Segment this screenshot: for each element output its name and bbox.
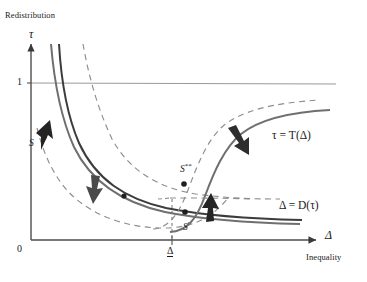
d-curve-solid-gray bbox=[51, 44, 300, 224]
equilibrium-point-interior bbox=[121, 193, 126, 198]
y-axis-name: Redistribution bbox=[5, 11, 55, 20]
y-tick-label-one: 1 bbox=[17, 77, 22, 87]
t-curve-label: τ = T(Δ) bbox=[272, 130, 311, 142]
origin-label: 0 bbox=[17, 244, 22, 254]
motion-arrow-up-left bbox=[36, 120, 53, 150]
point-label-s: S bbox=[29, 139, 34, 149]
equilibrium-point-s-star-star bbox=[181, 181, 187, 187]
phase-diagram-figure bbox=[0, 0, 367, 282]
point-label-s-star-star: S** bbox=[180, 163, 192, 175]
s-star-left-dashed bbox=[158, 198, 171, 199]
point-label-s-prime: S′ bbox=[183, 221, 189, 233]
tau-equals-one-line bbox=[31, 83, 336, 84]
x-tick-label-delta-bar: Δ bbox=[167, 246, 173, 257]
d-curve-label: Δ = D(τ) bbox=[279, 200, 319, 212]
equilibrium-point-s-prime bbox=[182, 209, 188, 215]
x-axis-symbol: Δ bbox=[325, 229, 332, 241]
point-label-s-prime-sup: ′ bbox=[188, 220, 190, 228]
point-label-s-star-star-sup: ** bbox=[185, 162, 192, 170]
x-axis-name: Inequality bbox=[306, 253, 341, 262]
motion-arrow-down-mid bbox=[86, 175, 103, 204]
d-curve-upper-dashed bbox=[83, 44, 280, 199]
y-axis-symbol: τ bbox=[29, 28, 33, 40]
